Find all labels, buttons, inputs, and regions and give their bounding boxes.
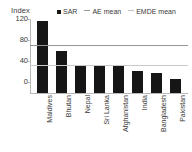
- y-tick-label: 0: [2, 78, 28, 86]
- y-tick-label: 40: [2, 57, 28, 65]
- reference-line-ae-mean: [30, 45, 188, 46]
- legend-item-sar: SAR: [57, 8, 77, 15]
- legend-label-emde-mean: EMDE mean: [136, 8, 176, 15]
- legend-label-ae-mean: AE mean: [92, 8, 121, 15]
- x-label-bhutan: Bhutan: [65, 73, 72, 95]
- legend-item-emde-mean: EMDE mean: [128, 8, 176, 15]
- legend-swatch-line-icon: [84, 10, 90, 11]
- x-label-maldives: Maldives: [46, 67, 53, 95]
- x-label-afghanistan: Afghanistan: [122, 58, 129, 95]
- legend-label-sar: SAR: [63, 8, 77, 15]
- legend-swatch-line-icon: [128, 10, 134, 11]
- x-label-sri-lanka: Sri Lanka: [103, 65, 110, 95]
- x-label-pakistan: Pakistan: [179, 68, 186, 95]
- x-label-bangladesh: Bangladesh: [160, 58, 167, 95]
- legend-swatch-square-icon: [57, 10, 61, 14]
- chart-legend: SAR AE mean EMDE mean: [57, 8, 176, 15]
- y-tick-label: 80: [2, 36, 28, 44]
- y-tick-label: 120: [2, 15, 28, 23]
- y-axis-ticks: 120 80 40 0: [0, 19, 28, 93]
- bar-chart: Index SAR AE mean EMDE mean 120 80 40 0: [0, 0, 192, 152]
- legend-item-ae-mean: AE mean: [84, 8, 121, 15]
- x-label-nepal: Nepal: [84, 77, 91, 95]
- x-label-india: India: [141, 80, 148, 95]
- x-axis-labels: Maldives Bhutan Nepal Sri Lanka Afghanis…: [30, 95, 188, 152]
